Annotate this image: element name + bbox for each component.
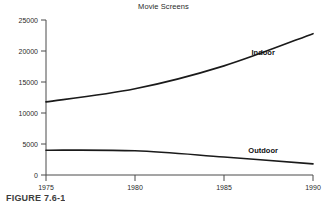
x-tick-label: 1990 [305,184,321,191]
y-tick-label: 10000 [19,110,39,117]
y-tick-label: 0 [34,172,38,179]
series-label-indoor: Indoor [251,48,274,57]
figure-caption: FIGURE 7.6-1 [6,193,65,206]
series-labels-group: Indoor Outdoor [248,48,278,155]
x-tick-label: 1980 [127,184,143,191]
y-tick-label: 25000 [19,17,39,24]
series-line-indoor [46,34,313,102]
y-tick-label: 15000 [19,79,39,86]
y-axis-ticks: 25000 20000 15000 10000 5000 0 [19,17,46,179]
series-label-outdoor: Outdoor [248,146,278,155]
x-axis-ticks: 1975 1980 1985 1990 [38,175,321,191]
x-tick-label: 1975 [38,184,54,191]
y-tick-label: 20000 [19,48,39,55]
line-chart-plot: 25000 20000 15000 10000 5000 0 1975 1980… [0,0,327,206]
x-tick-label: 1985 [216,184,232,191]
y-tick-label: 5000 [22,141,38,148]
figure-root: Movie Screens 25000 20000 15000 10000 50… [0,0,327,206]
